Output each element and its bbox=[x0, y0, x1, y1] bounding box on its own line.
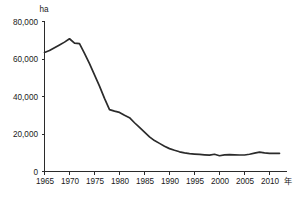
line-chart: ha 0 20,000 40,000 60,000 80,000 bbox=[0, 0, 294, 203]
x-tick-label-1975: 1975 bbox=[86, 177, 105, 186]
x-tick-label-1995: 1995 bbox=[186, 177, 205, 186]
y-axis-unit-label: ha bbox=[39, 5, 49, 14]
x-tick-label-1985: 1985 bbox=[136, 177, 155, 186]
x-tick-label-1990: 1990 bbox=[161, 177, 180, 186]
y-axis-ticks: 0 20,000 40,000 60,000 80,000 bbox=[13, 18, 45, 177]
x-axis-unit-label: 年 bbox=[284, 176, 292, 186]
x-tick-label-1980: 1980 bbox=[111, 177, 130, 186]
y-tick-label-40000: 40,000 bbox=[13, 93, 38, 102]
x-tick-label-1965: 1965 bbox=[36, 177, 55, 186]
y-tick-label-80000: 80,000 bbox=[13, 18, 38, 27]
y-tick-label-60000: 60,000 bbox=[13, 55, 38, 64]
y-tick-label-0: 0 bbox=[33, 168, 38, 177]
x-axis-ticks: 1965 1970 1975 1980 1985 1990 1995 2000 … bbox=[36, 172, 280, 187]
y-tick-label-20000: 20,000 bbox=[13, 130, 38, 139]
chart-container: ha 0 20,000 40,000 60,000 80,000 bbox=[0, 0, 294, 203]
x-tick-label-2010: 2010 bbox=[261, 177, 280, 186]
x-tick-label-2005: 2005 bbox=[236, 177, 255, 186]
x-tick-label-2000: 2000 bbox=[211, 177, 230, 186]
x-tick-label-1970: 1970 bbox=[61, 177, 80, 186]
series-line-area bbox=[45, 39, 280, 156]
